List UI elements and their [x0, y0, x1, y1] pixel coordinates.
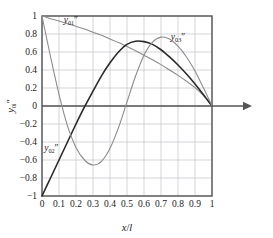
y-tick-label: −0.6: [20, 155, 37, 165]
x-tick-label: 0.6: [138, 199, 150, 209]
chart-figure: 00.10.20.30.40.50.60.70.80.91 10.80.60.4…: [0, 0, 273, 238]
y-tick-label: 0.6: [25, 47, 37, 57]
x-tick-label: 0.4: [104, 199, 116, 209]
y-tick-label: 0: [32, 101, 37, 111]
y-tick-label: −0.2: [20, 119, 37, 129]
x-tick-label: 0.1: [53, 199, 65, 209]
y-tick-label: 0.2: [25, 83, 37, 93]
y-tick-label: 0.4: [25, 65, 37, 75]
y-tick-label: 1: [32, 11, 37, 21]
x-axis-title: x/l: [121, 222, 133, 233]
x-tick-label: 1: [210, 199, 215, 209]
x-tick-label: 0.9: [189, 199, 201, 209]
x-tick-label: 0.3: [87, 199, 99, 209]
x-tick-label: 0.5: [121, 199, 133, 209]
y-tick-label: −0.8: [20, 173, 37, 183]
y-tick-label: 0.8: [25, 29, 37, 39]
y-tick-label: −1: [27, 191, 37, 201]
x-tick-label: 0: [40, 199, 45, 209]
x-tick-label: 0.2: [70, 199, 82, 209]
x-tick-label: 0.7: [155, 199, 167, 209]
y-tick-label: −0.4: [20, 137, 37, 147]
x-tick-label: 0.8: [172, 199, 184, 209]
mode-shape-second-derivative-chart: 00.10.20.30.40.50.60.70.80.91 10.80.60.4…: [0, 0, 273, 238]
x-axis-title-text: x/l: [121, 222, 133, 233]
